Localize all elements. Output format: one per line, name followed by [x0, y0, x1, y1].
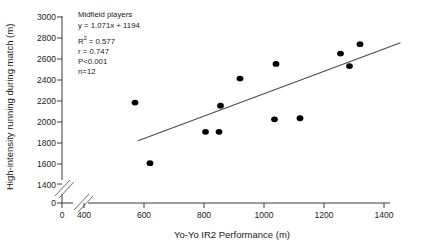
y-tick-label-2600: 2600 [37, 54, 56, 64]
y-tick-label-2200: 2200 [37, 96, 56, 106]
y-tick-label-2000: 2000 [37, 117, 56, 127]
y-tick-label-2400: 2400 [37, 75, 56, 85]
x-axis-title: Yo-Yo IR2 Performance (m) [174, 229, 290, 240]
data-point [337, 51, 344, 57]
r-exponent: 2 [84, 35, 87, 41]
y-axis-title: High-intensity running during match (m) [4, 24, 15, 190]
annotation-r-squared: R2= 0.577 [78, 35, 115, 46]
data-point-group [132, 41, 364, 166]
data-point [357, 41, 364, 47]
x-tick-label-600: 600 [137, 210, 151, 220]
x-tick-label-0: 0 [60, 210, 65, 220]
data-point [202, 129, 209, 135]
chart-canvas: High-intensity running during match (m) … [0, 0, 428, 248]
data-point [217, 103, 224, 109]
data-point [297, 115, 304, 121]
scatter-plot-figure: High-intensity running during match (m) … [0, 0, 428, 248]
y-tick-label-1400: 1400 [37, 180, 56, 190]
y-tick-label-0: 0 [51, 198, 56, 208]
y-tick-label-2800: 2800 [37, 33, 56, 43]
annotation-equation: y = 1.071x + 1194 [78, 21, 141, 30]
data-point [216, 129, 223, 135]
annotation-n-value: n=12 [78, 67, 96, 76]
y-tick-label-3000: 3000 [37, 12, 56, 22]
x-tick-label-400: 400 [77, 210, 91, 220]
x-tick-label-1200: 1200 [315, 210, 334, 220]
x-tick-label-800: 800 [197, 210, 211, 220]
data-point [346, 63, 353, 69]
data-point [132, 100, 139, 106]
x-tick-label-1400: 1400 [375, 210, 394, 220]
y-tick-label-1800: 1800 [37, 138, 56, 148]
data-point [271, 116, 278, 122]
y-tick-label-1600: 1600 [37, 159, 56, 169]
r-squared-value: = 0.577 [89, 37, 115, 46]
data-point [273, 61, 280, 67]
regression-annotation: Midfield players y = 1.071x + 1194 R2= 0… [78, 10, 141, 76]
x-tick-label-1000: 1000 [255, 210, 274, 220]
y-axis-break-icon [55, 180, 74, 198]
data-point [237, 76, 244, 82]
regression-line [138, 43, 401, 141]
annotation-group-label: Midfield players [78, 10, 132, 19]
data-point [147, 160, 154, 166]
annotation-p-value: P<0.001 [78, 57, 107, 66]
annotation-r-value: r = 0.747 [78, 47, 109, 56]
